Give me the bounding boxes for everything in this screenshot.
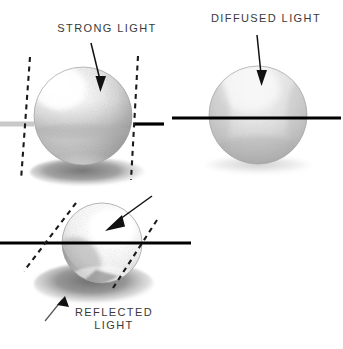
lighting-study-figure: STRONG LIGHT DIFFUSED LIGHT REFLECTED LI… [0,0,343,349]
dashed-tangent-left-strong [21,57,30,180]
panel-strong-light [0,43,164,186]
label-diffused-light: DIFFUSED LIGHT [198,12,334,25]
label-strong-light: STRONG LIGHT [44,22,170,35]
panel-reflected-light [0,196,191,321]
label-reflected-light: REFLECTED LIGHT [52,306,176,332]
drawing-canvas [0,0,343,349]
sphere-diffused-light [202,64,313,168]
panel-diffused-light [172,35,341,175]
